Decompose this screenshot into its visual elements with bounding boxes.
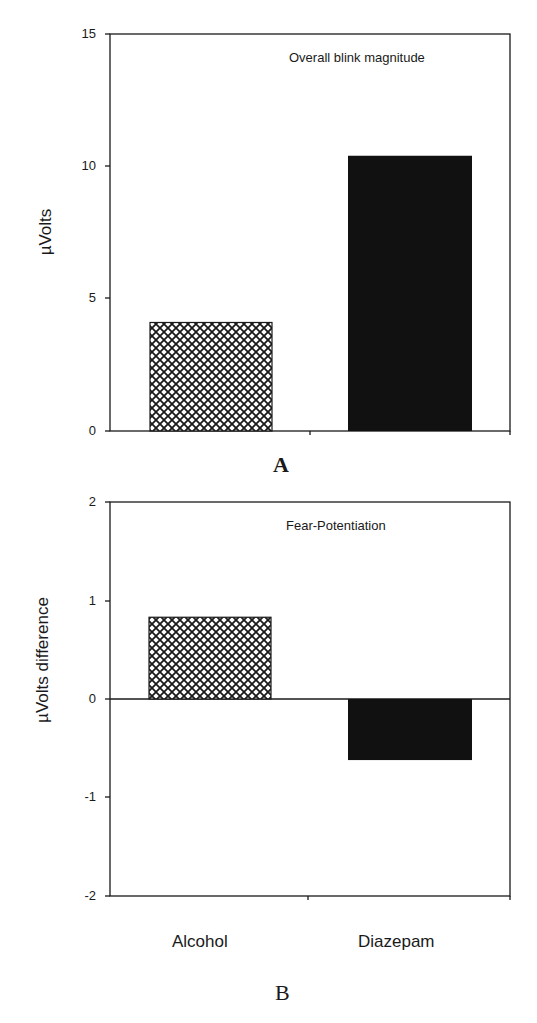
panel-b-ylabel: µVolts difference: [33, 590, 53, 730]
panel-b-tick-neg2: -2: [66, 888, 96, 903]
panel-a-letter: A: [273, 452, 289, 478]
bar-diazepam-a: [348, 156, 472, 431]
bar-alcohol-a: [150, 322, 272, 431]
panel-b-tick-neg1: -1: [66, 789, 96, 804]
panel-b-tick-0: 0: [66, 691, 96, 706]
panel-a-plot: [105, 34, 510, 435]
panel-a-tick-0: 0: [66, 423, 96, 438]
bar-diazepam-b: [348, 699, 472, 760]
panel-a-tick-10: 10: [66, 158, 96, 173]
x-category-alcohol: Alcohol: [172, 932, 228, 952]
panel-a-tick-15: 15: [66, 26, 96, 41]
chart-canvas: [0, 0, 537, 1023]
panel-a-tick-5: 5: [66, 290, 96, 305]
bar-alcohol-b: [149, 617, 271, 699]
panel-b-tick-2: 2: [66, 494, 96, 509]
panel-b-plot: [105, 502, 510, 900]
panel-a-ylabel: µVolts: [36, 202, 56, 262]
panel-b-title: Fear-Potentiation: [286, 518, 386, 533]
panel-a-title: Overall blink magnitude: [289, 50, 425, 65]
panel-b-tick-1: 1: [66, 593, 96, 608]
x-category-diazepam: Diazepam: [358, 932, 435, 952]
panel-b-letter: B: [275, 980, 290, 1006]
